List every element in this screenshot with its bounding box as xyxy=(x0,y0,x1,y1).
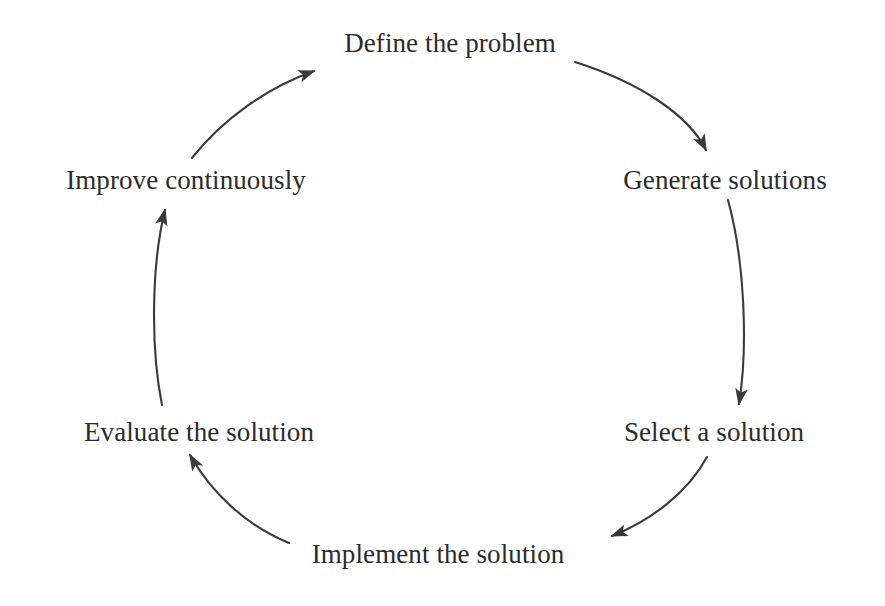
cycle-node-define: Define the problem xyxy=(344,29,556,59)
arrow-evaluate-to-improve xyxy=(154,210,165,405)
arrow-generate-to-select xyxy=(728,200,744,404)
cycle-diagram: Define the problemGenerate solutionsSele… xyxy=(0,0,885,606)
arrow-implement-to-evaluate xyxy=(190,455,289,543)
cycle-node-generate: Generate solutions xyxy=(623,166,827,196)
arrow-define-to-generate xyxy=(575,62,706,150)
cycle-node-implement: Implement the solution xyxy=(312,540,565,570)
arrow-improve-to-define xyxy=(192,71,314,158)
arrow-select-to-implement xyxy=(612,457,707,536)
cycle-node-improve: Improve continuously xyxy=(66,166,306,196)
cycle-arrows-canvas xyxy=(0,0,885,606)
cycle-node-evaluate: Evaluate the solution xyxy=(84,418,314,448)
cycle-node-select: Select a solution xyxy=(624,418,804,448)
